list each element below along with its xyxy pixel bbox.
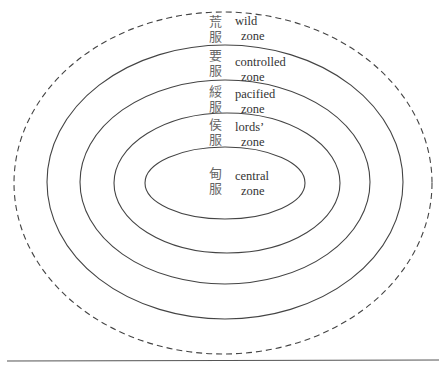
lords-zone-label: 侯 服 lords’ zone — [208, 117, 265, 150]
central-zone-cjk: 甸 服 — [208, 166, 222, 196]
central-zone-en: central zone — [235, 169, 269, 199]
wild-zone-cjk: 荒 服 — [208, 14, 222, 44]
bottom-rule — [7, 360, 439, 361]
central-zone-label: 甸 服 central zone — [208, 166, 269, 199]
controlled-zone-cjk: 要 服 — [208, 48, 222, 78]
controlled-zone-label: 要 服 controlled zone — [208, 48, 286, 85]
pacified-zone-label: 綏 服 pacified zone — [208, 84, 275, 117]
lords-zone-cjk: 侯 服 — [208, 117, 222, 147]
lords-zone-en: lords’ zone — [235, 120, 265, 150]
wild-zone-label: 荒 服 wild zone — [208, 14, 265, 44]
wild-zone-en: wild zone — [235, 14, 265, 44]
pacified-zone-cjk: 綏 服 — [208, 84, 222, 114]
pacified-zone-en: pacified zone — [235, 87, 275, 117]
controlled-zone-en: controlled zone — [235, 55, 286, 85]
